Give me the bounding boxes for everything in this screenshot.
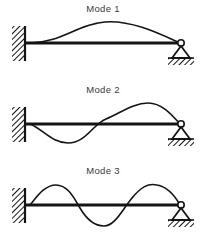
- wall-hatching: [12, 188, 24, 223]
- wall-hatching: [12, 26, 24, 61]
- ground-hatching: [168, 220, 194, 227]
- support-triangle: [172, 127, 190, 139]
- mode-panel-3: Mode 3: [0, 162, 206, 244]
- fixed-support-left: [12, 26, 25, 61]
- mode-1-diagram: [0, 0, 206, 82]
- ground-hatching: [168, 58, 194, 65]
- ground-hatching: [168, 139, 194, 146]
- mode-panel-2: Mode 2: [0, 81, 206, 163]
- mode-2-diagram: [0, 81, 206, 163]
- mode-panel-1: Mode 1: [0, 0, 206, 82]
- fixed-support-left: [12, 107, 25, 142]
- mode-3-diagram: [0, 162, 206, 247]
- mode-shape-curve: [30, 22, 180, 43]
- fixed-support-left: [12, 188, 25, 223]
- mode-shapes-figure: Mode 1: [0, 0, 206, 247]
- support-triangle: [172, 46, 190, 58]
- support-triangle: [172, 208, 190, 220]
- wall-hatching: [12, 107, 24, 142]
